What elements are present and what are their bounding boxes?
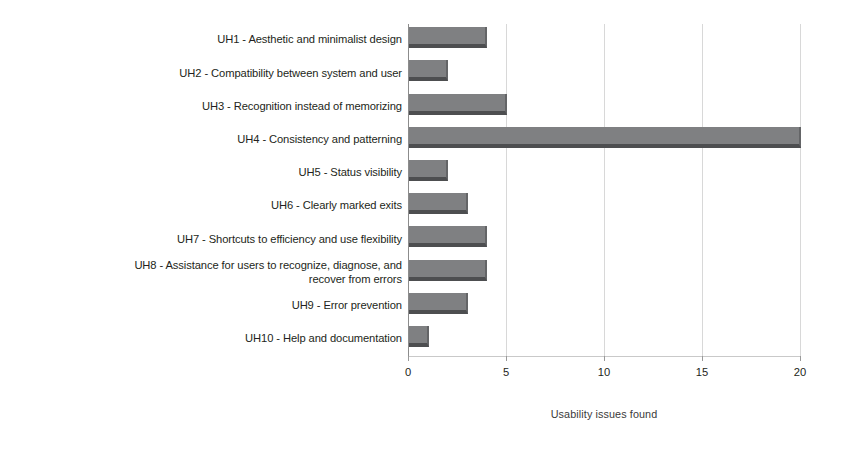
gridline-20 [800, 24, 801, 356]
gridline-10 [604, 24, 605, 356]
bar [409, 60, 448, 81]
bar [409, 160, 448, 181]
bar [409, 326, 429, 347]
x-tick-mark [408, 356, 409, 361]
category-label: UH7 - Shortcuts to efficiency and use fl… [20, 232, 402, 247]
bar [409, 94, 507, 115]
gridline-15 [702, 24, 703, 356]
gridline-5 [506, 24, 507, 356]
x-tick-label: 5 [503, 366, 509, 378]
x-tick-mark [800, 356, 801, 361]
x-tick-label: 0 [405, 366, 411, 378]
x-tick-label: 20 [794, 366, 806, 378]
category-label: UH3 - Recognition instead of memorizing [20, 99, 402, 114]
category-label: UH1 - Aesthetic and minimalist design [20, 32, 402, 47]
category-label: UH4 - Consistency and patterning [20, 132, 402, 147]
category-label: UH9 - Error prevention [20, 298, 402, 313]
x-tick-label: 15 [696, 366, 708, 378]
bar [409, 27, 487, 48]
bar [409, 293, 468, 314]
category-label: UH10 - Help and documentation [20, 331, 402, 346]
bar-chart: UH1 - Aesthetic and minimalist designUH2… [0, 0, 851, 457]
plot-area: 05101520 [408, 24, 800, 356]
bar [409, 127, 801, 148]
bar [409, 260, 487, 281]
category-label: UH2 - Compatibility between system and u… [20, 66, 402, 81]
category-label: UH5 - Status visibility [20, 165, 402, 180]
bar [409, 193, 468, 214]
x-axis-title: Usability issues found [408, 408, 800, 420]
x-tick-mark [702, 356, 703, 361]
x-tick-label: 10 [598, 366, 610, 378]
category-label-column: UH1 - Aesthetic and minimalist designUH2… [20, 24, 402, 356]
bar [409, 226, 487, 247]
category-label: UH6 - Clearly marked exits [20, 198, 402, 213]
category-label: UH8 - Assistance for users to recognize,… [20, 258, 402, 287]
x-tick-mark [506, 356, 507, 361]
x-tick-mark [604, 356, 605, 361]
